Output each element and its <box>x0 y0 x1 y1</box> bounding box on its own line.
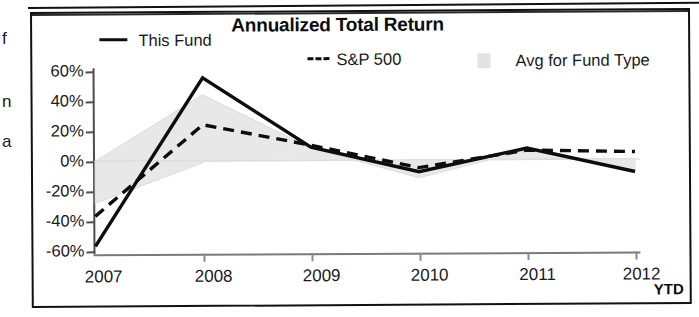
plot-area: 60% 40% 20% 0% -20% -40% <box>93 68 639 251</box>
x-label-2007: 2007 <box>85 267 123 287</box>
x-tick-2010 <box>419 253 421 261</box>
chart-title: Annualized Total Return <box>231 14 444 37</box>
y-tick-label-neg40: -40% <box>46 211 85 230</box>
dashed-line-swatch-icon <box>307 57 329 60</box>
x-axis-ytd-label: YTD <box>654 280 684 297</box>
chart-content: Annualized Total Return This Fund S&P 50… <box>0 0 699 317</box>
x-label-2009: 2009 <box>303 266 341 286</box>
x-label-2011: 2011 <box>519 265 556 285</box>
solid-line-swatch-icon <box>99 38 127 41</box>
series-plot <box>93 65 643 258</box>
x-tick-2008 <box>203 254 205 262</box>
y-tick-label-neg20: -20% <box>46 181 85 200</box>
x-tick-2009 <box>311 253 313 261</box>
x-label-2010: 2010 <box>411 265 449 285</box>
legend-label-this-fund: This Fund <box>138 31 211 50</box>
y-tick-label-40: 40% <box>51 91 84 110</box>
y-tick-label-neg60: -60% <box>46 241 85 260</box>
chart-page: f n a Annualized Total Return This Fund … <box>0 0 699 317</box>
x-tick-2011 <box>527 252 529 260</box>
x-tick-2012 <box>635 251 637 259</box>
y-tick-label-60: 60% <box>50 61 83 80</box>
legend-item-this-fund: This Fund <box>99 31 211 51</box>
y-tick-label-20: 20% <box>51 121 84 140</box>
y-tick-label-0: 0% <box>60 151 84 170</box>
x-label-2008: 2008 <box>195 267 233 287</box>
area-series-negative <box>95 161 203 204</box>
